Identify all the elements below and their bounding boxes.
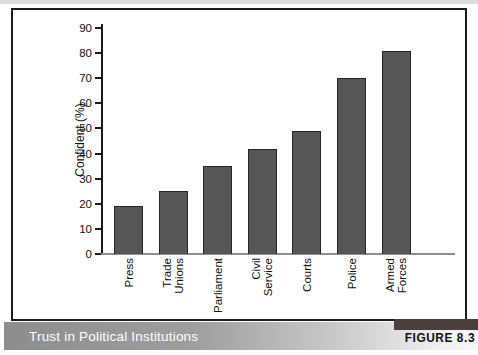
- y-tick-label: 70: [62, 72, 92, 84]
- y-tick-label: 30: [62, 173, 92, 185]
- y-tick-label: 50: [62, 122, 92, 134]
- y-tick-label: 40: [62, 148, 92, 160]
- y-tick-mark: [95, 102, 101, 104]
- bar-civil-service: [248, 149, 277, 254]
- y-tick-mark: [95, 52, 101, 54]
- category-label-trade-unions: Trade Unions: [161, 258, 185, 330]
- y-axis-label: Confident (%): [73, 103, 87, 176]
- y-tick-mark: [95, 27, 101, 29]
- category-label-parliament: Parliament: [212, 258, 224, 330]
- bar-police: [337, 78, 366, 254]
- bar-trade-unions: [159, 191, 188, 254]
- page-edge-strip: [0, 0, 478, 4]
- y-tick-label: 10: [62, 223, 92, 235]
- figure-page: Confident (%) 0102030405060708090 PressT…: [0, 0, 478, 355]
- figure-number-label: FIGURE 8.3: [405, 331, 475, 345]
- bar-parliament: [203, 166, 232, 254]
- y-tick-mark: [95, 77, 101, 79]
- bar-courts: [292, 131, 321, 254]
- y-tick-mark: [95, 203, 101, 205]
- y-tick-label: 20: [62, 198, 92, 210]
- y-tick-mark: [95, 253, 101, 255]
- category-label-civil-service: Civil Service: [250, 258, 274, 330]
- category-label-press: Press: [123, 258, 135, 330]
- figure-caption: Trust in Political Institutions: [29, 329, 198, 344]
- y-tick-label: 80: [62, 47, 92, 59]
- figure-number-block: [394, 319, 478, 330]
- bar-press: [114, 206, 143, 254]
- y-tick-mark: [95, 228, 101, 230]
- bar-armed-forces: [382, 51, 411, 254]
- y-tick-mark: [95, 178, 101, 180]
- y-tick-mark: [95, 153, 101, 155]
- category-label-courts: Courts: [301, 258, 313, 330]
- y-tick-mark: [95, 127, 101, 129]
- y-tick-label: 0: [62, 248, 92, 260]
- y-axis-line: [101, 24, 103, 254]
- y-tick-label: 60: [62, 97, 92, 109]
- y-tick-label: 90: [62, 22, 92, 34]
- category-label-police: Police: [346, 258, 358, 330]
